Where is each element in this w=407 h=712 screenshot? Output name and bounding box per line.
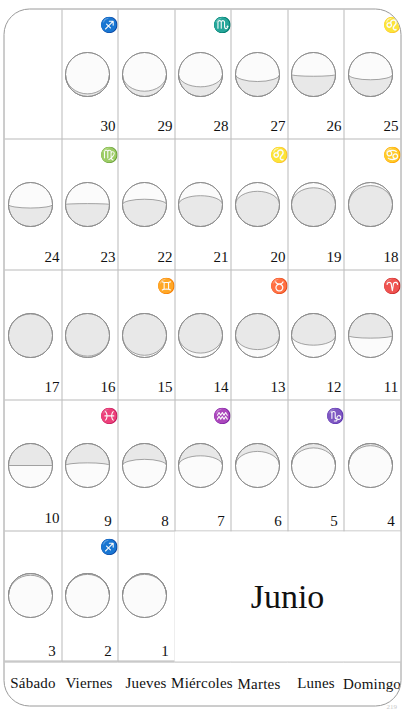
moon-phase-icon (346, 180, 394, 228)
moon-phase-icon (176, 180, 224, 228)
day-number-text: 21 (213, 249, 228, 264)
weekday-label-text: Lunes (296, 675, 334, 692)
day-cell[interactable]: 27 (230, 9, 287, 139)
day-number: 9 (100, 517, 115, 525)
day-cell[interactable]: 19 (287, 139, 344, 269)
moon-phase-icon (233, 311, 281, 359)
day-number-text: 17 (44, 379, 59, 394)
zodiac-glyph: ♏ (212, 17, 231, 32)
day-number-text: 25 (383, 118, 398, 133)
day-cell[interactable]: 1 (117, 531, 174, 661)
day-cell[interactable]: 22 (117, 139, 174, 269)
day-cell[interactable]: 13♉ (230, 270, 287, 400)
day-number-text: 5 (330, 513, 338, 528)
moon-phase-icon (233, 180, 281, 228)
day-cell[interactable]: 9♓ (61, 400, 118, 530)
day-number: 25 (383, 118, 398, 133)
day-cell[interactable]: 29 (117, 9, 174, 139)
day-number: 7 (213, 517, 228, 525)
day-cell[interactable]: 3 (4, 531, 61, 661)
day-cell[interactable]: 15♊ (117, 270, 174, 400)
day-cell[interactable]: 20♌ (230, 139, 287, 269)
day-number: 30 (100, 118, 115, 133)
weekday-label-jueves: Jueves (117, 661, 174, 705)
day-cell[interactable]: 24 (4, 139, 61, 269)
zodiac-taurus-icon: ♉ (271, 276, 286, 295)
day-number-text: 4 (387, 513, 395, 528)
day-number: 2 (100, 648, 115, 656)
moon-phase-icon (176, 50, 224, 98)
moon-phase-icon (63, 311, 111, 359)
zodiac-capricorn-icon: ♑ (327, 406, 342, 425)
day-cell[interactable]: 7♒ (174, 400, 231, 530)
zodiac-glyph: ♐ (99, 539, 118, 554)
day-number-text: 1 (160, 644, 168, 659)
moon-phase-icon (120, 50, 168, 98)
day-number-text: 27 (270, 118, 285, 133)
day-number: 24 (44, 249, 59, 264)
day-cell[interactable]: 30♐ (61, 9, 118, 139)
zodiac-glyph: ♈ (382, 278, 401, 293)
day-cell[interactable]: 17 (4, 270, 61, 400)
day-cell[interactable]: 12 (287, 270, 344, 400)
zodiac-glyph: ♌ (269, 147, 288, 162)
day-number: 14 (213, 379, 228, 394)
day-number: 26 (326, 118, 341, 133)
zodiac-virgo-icon: ♍ (101, 145, 116, 164)
empty-cell (4, 9, 61, 139)
weekday-label-domingo: Domingo (343, 661, 400, 705)
zodiac-leo-icon: ♌ (384, 15, 399, 34)
page-number: 219 (387, 703, 398, 711)
day-number-text: 15 (157, 379, 172, 394)
day-cell[interactable]: 11♈ (343, 270, 400, 400)
moon-phase-icon (120, 311, 168, 359)
calendar-card: Sábado3101724Viernes2♐9♓1623♍30♐Jueves18… (3, 8, 401, 706)
day-cell[interactable]: 28♏ (174, 9, 231, 139)
day-cell[interactable]: 5♑ (287, 400, 344, 530)
day-cell[interactable]: 6 (230, 400, 287, 530)
zodiac-glyph: ♒ (212, 408, 231, 423)
day-number: 23 (100, 249, 115, 264)
zodiac-sagittarius-icon: ♐ (101, 15, 116, 34)
zodiac-glyph: ♌ (382, 17, 401, 32)
day-number: 16 (100, 379, 115, 394)
moon-phase-icon (120, 180, 168, 228)
weekday-label-mircoles: Miércoles (174, 661, 231, 705)
moon-phase-icon (176, 311, 224, 359)
weekday-label-viernes: Viernes (61, 661, 118, 705)
day-number-text: 30 (100, 118, 115, 133)
day-cell[interactable]: 4 (343, 400, 400, 530)
day-number-text: 12 (326, 379, 341, 394)
moon-phase-icon (6, 180, 54, 228)
day-cell[interactable]: 23♍ (61, 139, 118, 269)
day-cell[interactable]: 10 (4, 400, 61, 530)
day-number: 12 (326, 379, 341, 394)
day-cell[interactable]: 14 (174, 270, 231, 400)
day-cell[interactable]: 8 (117, 400, 174, 530)
day-cell[interactable]: 18♋ (343, 139, 400, 269)
day-cell[interactable]: 26 (287, 9, 344, 139)
moon-phase-icon (289, 50, 337, 98)
day-number: 15 (157, 379, 172, 394)
day-number-text: 3 (47, 644, 55, 659)
day-cell[interactable]: 2♐ (61, 531, 118, 661)
calendar-page: Sábado3101724Viernes2♐9♓1623♍30♐Jueves18… (0, 0, 407, 712)
day-number-text: 28 (213, 118, 228, 133)
zodiac-glyph: ♊ (156, 278, 175, 293)
day-number-text: 19 (326, 249, 341, 264)
day-cell[interactable]: 16 (61, 270, 118, 400)
day-number-text: 10 (44, 510, 59, 525)
day-cell[interactable]: 21 (174, 139, 231, 269)
day-cell[interactable]: 25♌ (343, 9, 400, 139)
day-number: 11 (383, 380, 398, 394)
day-number: 28 (213, 118, 228, 133)
day-number-text: 24 (44, 249, 59, 264)
zodiac-glyph: ♉ (269, 278, 288, 293)
zodiac-glyph: ♑ (325, 408, 344, 423)
moon-phase-icon (120, 571, 168, 619)
day-number: 29 (157, 118, 172, 133)
moon-phase-icon (346, 311, 394, 359)
moon-phase-icon (63, 50, 111, 98)
moon-phase-icon (233, 50, 281, 98)
day-number: 6 (270, 517, 285, 525)
